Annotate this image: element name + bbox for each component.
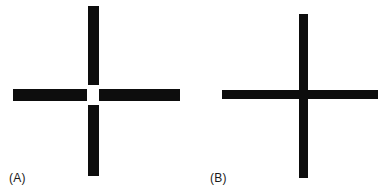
panel-b-caption: (B) bbox=[210, 171, 227, 185]
panel-b-vertical-bar bbox=[299, 14, 308, 178]
figure-container: (A) (B) bbox=[0, 0, 388, 193]
panel-a-caption: (A) bbox=[9, 171, 26, 185]
panel-a: (A) bbox=[0, 0, 194, 193]
panel-a-horizontal-left-arm bbox=[13, 89, 87, 101]
panel-a-horizontal-right-arm bbox=[98, 89, 180, 101]
panel-a-vertical-top-arm bbox=[88, 6, 99, 85]
panel-a-intersection-gap bbox=[88, 85, 99, 105]
panel-b: (B) bbox=[194, 0, 388, 193]
panel-a-vertical-bottom-arm bbox=[88, 105, 99, 176]
